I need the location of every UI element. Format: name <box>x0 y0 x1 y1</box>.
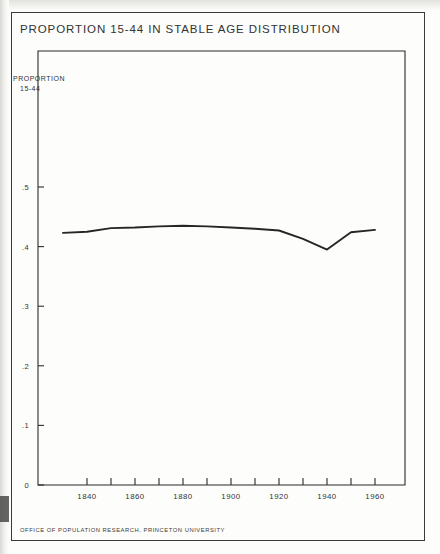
x-axis-ticks: 1840186018801900192019401960 <box>77 478 385 501</box>
line-chart: 0.1.2.3.4.5 1840186018801900192019401960 <box>0 0 440 554</box>
y-tick-label: .1 <box>22 421 29 430</box>
y-tick-label: .2 <box>22 362 29 371</box>
x-tick-label: 1840 <box>77 492 97 501</box>
y-tick-label: .4 <box>22 243 29 252</box>
x-tick-label: 1900 <box>221 492 241 501</box>
footer-credit: OFFICE OF POPULATION RESEARCH, PRINCETON… <box>20 527 225 533</box>
chart-page: PROPORTION 15-44 IN STABLE AGE DISTRIBUT… <box>0 0 440 554</box>
data-series-group <box>63 226 375 250</box>
y-tick-label: 0 <box>24 481 29 490</box>
y-axis-ticks: 0.1.2.3.4.5 <box>22 183 44 490</box>
chart-axes <box>38 51 405 485</box>
x-tick-label: 1920 <box>269 492 289 501</box>
x-tick-label: 1940 <box>317 492 337 501</box>
y-tick-label: .5 <box>22 183 29 192</box>
x-tick-label: 1860 <box>125 492 145 501</box>
x-tick-label: 1880 <box>173 492 193 501</box>
data-line-series <box>63 226 375 250</box>
x-tick-label: 1960 <box>365 492 385 501</box>
plot-frame <box>38 51 405 485</box>
y-tick-label: .3 <box>22 302 29 311</box>
